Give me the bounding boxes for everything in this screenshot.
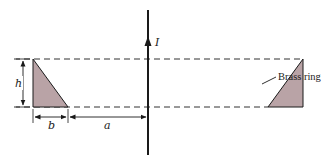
dimension-b: b — [33, 109, 68, 132]
callout-leader-line — [262, 77, 276, 84]
dimension-h: h — [13, 59, 30, 107]
base-label: b — [48, 119, 55, 132]
current-arrow-icon — [145, 36, 152, 46]
distance-label: a — [104, 119, 111, 132]
ring-cross-section-left — [33, 59, 68, 107]
height-label: h — [15, 77, 22, 90]
diagram-canvas: I h b a Brass ring — [0, 0, 330, 163]
wire: I — [145, 10, 161, 155]
brass-ring-label: Brass ring — [278, 71, 322, 82]
dimension-a: a — [70, 117, 146, 132]
current-label: I — [154, 36, 160, 49]
ring-cross-section-right — [268, 59, 303, 107]
